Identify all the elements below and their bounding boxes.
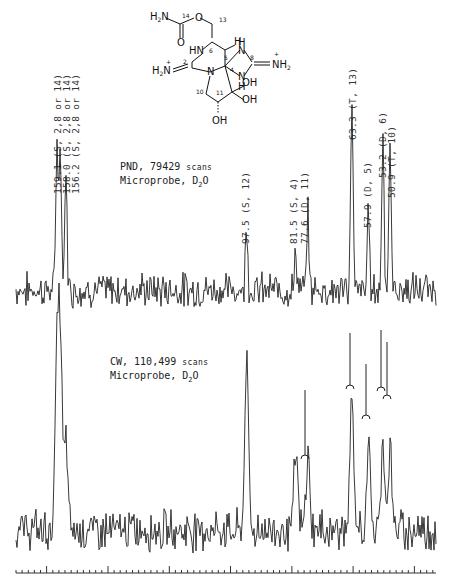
- top-spectrum-trace: [16, 105, 436, 309]
- nmr-figure: H2N 14 O 13 O HN 6 H 5 N H 4 N H 8 NH2 +…: [0, 0, 452, 583]
- spectra-plot: [0, 0, 452, 583]
- ppm-axis: [16, 566, 436, 573]
- bottom-spectrum-trace: [16, 283, 436, 553]
- truncation-brackets: [301, 330, 391, 459]
